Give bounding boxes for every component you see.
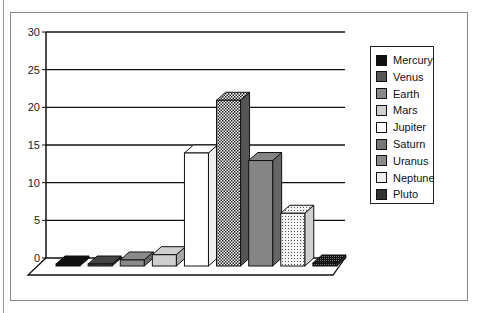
legend-swatch	[376, 105, 387, 116]
bar-neptune	[281, 205, 314, 266]
y-tick-label: 30	[28, 26, 40, 38]
bar-jupiter	[184, 145, 217, 266]
legend-swatch	[376, 71, 387, 82]
legend-swatch	[376, 189, 387, 200]
legend-item-saturn: Saturn	[376, 137, 425, 151]
y-tick-label: 5	[34, 214, 40, 226]
bar-side	[305, 205, 314, 266]
bar-front	[152, 255, 176, 266]
legend-item-earth: Earth	[376, 87, 419, 101]
legend-swatch	[376, 139, 387, 150]
legend-item-mercury: Mercury	[376, 53, 433, 67]
bar-saturn	[217, 92, 250, 266]
y-tick-label: 0	[34, 252, 40, 264]
bars	[56, 92, 346, 266]
bar-uranus	[249, 153, 282, 266]
y-tick-label: 20	[28, 101, 40, 113]
legend-swatch	[376, 88, 387, 99]
legend-label: Venus	[393, 71, 424, 83]
legend-label: Earth	[393, 88, 419, 100]
legend-label: Mars	[393, 104, 417, 116]
legend-item-uranus: Uranus	[376, 154, 428, 168]
legend-item-mars: Mars	[376, 103, 417, 117]
chart-legend: MercuryVenusEarthMarsJupiterSaturnUranus…	[370, 46, 434, 204]
bar-front	[120, 260, 144, 266]
legend-label: Uranus	[393, 155, 428, 167]
y-tick-label: 10	[28, 177, 40, 189]
legend-swatch	[376, 155, 387, 166]
legend-swatch	[376, 55, 387, 66]
legend-item-neptune: Neptune	[376, 171, 435, 185]
y-tick-label: 25	[28, 64, 40, 76]
bar-front	[281, 213, 305, 266]
legend-label: Mercury	[393, 54, 433, 66]
legend-swatch	[376, 122, 387, 133]
bar-front	[217, 100, 241, 266]
legend-item-venus: Venus	[376, 70, 424, 84]
legend-label: Neptune	[393, 172, 435, 184]
bar-front	[56, 264, 80, 266]
legend-swatch	[376, 172, 387, 183]
legend-label: Jupiter	[393, 121, 426, 133]
legend-label: Pluto	[393, 188, 418, 200]
y-tick-label: 15	[28, 139, 40, 151]
bar-front	[313, 263, 337, 266]
legend-item-jupiter: Jupiter	[376, 120, 426, 134]
bar-front	[184, 153, 208, 266]
legend-label: Saturn	[393, 138, 425, 150]
bar-front	[249, 161, 273, 266]
bar-front	[88, 264, 112, 266]
legend-item-pluto: Pluto	[376, 187, 418, 201]
